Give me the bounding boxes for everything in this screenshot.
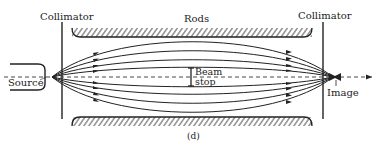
image-point-icon <box>329 73 341 81</box>
label-image: Image <box>327 87 359 98</box>
label-source: Source <box>8 77 44 88</box>
label-collimator-right: Collimator <box>298 10 352 21</box>
panel-label: (d) <box>187 131 200 141</box>
electron-lens-diagram: Collimator Collimator Rods Source Image … <box>0 0 380 146</box>
bottom-rod <box>72 117 312 126</box>
axis-arrowhead <box>366 75 372 80</box>
diagram-canvas: Collimator Collimator Rods Source Image … <box>0 0 380 146</box>
top-rod <box>72 28 312 37</box>
label-beam-stop-2: stop <box>195 76 216 87</box>
label-collimator-left: Collimator <box>40 11 94 22</box>
label-rods: Rods <box>184 13 209 24</box>
